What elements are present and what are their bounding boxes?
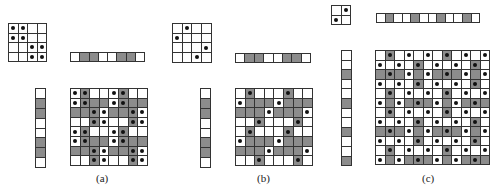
white-cell [481, 80, 490, 90]
white-cell [36, 119, 46, 129]
gray-cell [452, 70, 462, 80]
white-cell [183, 34, 193, 44]
white-cell [424, 127, 434, 137]
white-cell [38, 34, 48, 44]
dot-icon [454, 63, 458, 67]
white-cell [452, 146, 462, 156]
gray-cell [294, 147, 304, 157]
white-cell [443, 118, 453, 128]
gray-cell [81, 147, 91, 157]
white-cell [100, 127, 110, 137]
gray-cell [274, 147, 284, 157]
dot-icon [248, 130, 252, 134]
dot-icon [454, 82, 458, 86]
dot-icon [248, 91, 252, 95]
gray-cell [414, 61, 424, 71]
dot-icon [11, 26, 15, 30]
white-cell [424, 146, 434, 156]
white-cell [192, 24, 202, 34]
dot-icon [305, 110, 309, 114]
white-cell [403, 14, 412, 23]
dot-icon [378, 101, 382, 105]
dot-icon [40, 55, 44, 59]
white-cell [471, 51, 481, 61]
white-cell [395, 89, 405, 99]
dot-icon [112, 130, 116, 134]
white-cell [342, 89, 352, 99]
dot-icon [407, 91, 411, 95]
white-cell [342, 118, 352, 128]
white-cell [443, 137, 453, 147]
white-cell [236, 54, 245, 63]
gray-cell [303, 137, 313, 147]
gray-cell [36, 138, 46, 148]
dot-icon [426, 72, 430, 76]
gray-cell [342, 157, 352, 167]
white-cell [433, 89, 443, 99]
dot-icon [140, 158, 144, 162]
white-cell [472, 14, 481, 23]
white-cell [424, 89, 434, 99]
gray-cell [294, 118, 304, 128]
dot-icon [473, 158, 477, 162]
white-cell [429, 14, 438, 23]
gray-cell [414, 156, 424, 166]
gray-cell [100, 137, 110, 147]
white-cell [38, 24, 48, 34]
dot-icon [121, 101, 125, 105]
gray-cell [452, 127, 462, 137]
white-cell [109, 118, 119, 128]
white-cell [376, 118, 386, 128]
white-cell [452, 80, 462, 90]
gray-cell [36, 99, 46, 109]
white-cell [274, 89, 284, 99]
dot-icon [388, 72, 392, 76]
white-cell [405, 80, 415, 90]
gray-cell [117, 53, 126, 62]
gray-cell [90, 53, 99, 62]
gray-cell [90, 137, 100, 147]
gray-cell [376, 70, 386, 80]
white-cell [202, 43, 212, 53]
white-cell [36, 158, 46, 168]
white-cell [100, 118, 110, 128]
white-cell [376, 89, 386, 99]
white-cell [342, 80, 352, 90]
white-cell [481, 127, 490, 137]
dot-icon [388, 129, 392, 133]
gray-cell [405, 156, 415, 166]
gray-cell [201, 148, 211, 158]
gray-cell [405, 99, 415, 109]
dot-icon [131, 158, 135, 162]
white-cell [405, 51, 415, 61]
white-cell [462, 146, 472, 156]
dot-icon [454, 158, 458, 162]
white-cell [109, 137, 119, 147]
gray-cell [471, 70, 481, 80]
white-cell [303, 108, 313, 118]
white-cell [255, 127, 265, 137]
dot-icon [454, 120, 458, 124]
dot-icon [83, 101, 87, 105]
white-cell [462, 127, 472, 137]
dot-icon [483, 148, 487, 152]
white-cell [138, 89, 148, 99]
dot-icon [407, 148, 411, 152]
white-cell [173, 34, 183, 44]
white-cell [433, 146, 443, 156]
dot-icon [140, 149, 144, 153]
gray-cell [342, 99, 352, 109]
white-cell [452, 108, 462, 118]
white-cell [376, 156, 386, 166]
white-cell [342, 6, 352, 16]
gray-cell [386, 51, 396, 61]
dot-icon [73, 101, 77, 105]
dot-icon [204, 46, 208, 50]
dot-icon [121, 139, 125, 143]
gray-cell [119, 147, 129, 157]
white-cell [265, 147, 275, 157]
gray-cell [81, 89, 91, 99]
dot-icon [416, 158, 420, 162]
dot-icon [378, 63, 382, 67]
dot-icon [426, 91, 430, 95]
